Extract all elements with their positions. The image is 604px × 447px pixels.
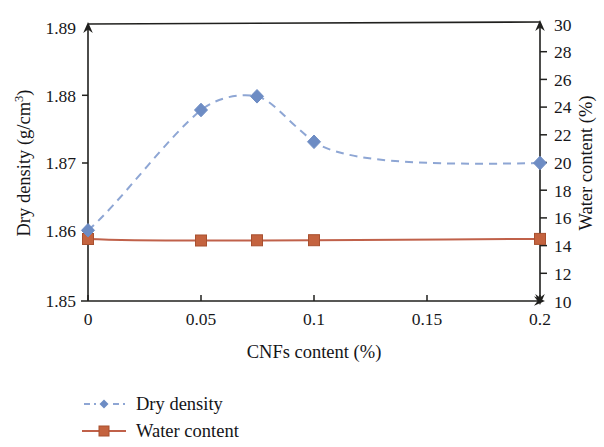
legend-item-water-content[interactable]: Water content [82, 421, 240, 441]
y-axis-title-group: Dry density (g/cm3) [12, 89, 35, 236]
y2-tick-label-26: 26 [554, 70, 572, 90]
chart-legend: Dry density Water content [82, 394, 240, 441]
legend-item-dry-density[interactable]: Dry density [84, 394, 224, 414]
x-axis-ticks [88, 295, 540, 301]
y2-tick-label-24: 24 [554, 97, 572, 117]
y-tick-label-1-85: 1.85 [45, 291, 76, 311]
y2-tick-label-30: 30 [554, 15, 572, 35]
chart-svg: 1.89 1.88 1.87 1.86 1.85 30 28 26 24 22 … [0, 0, 604, 447]
x-tick-label-0-2: 0.2 [529, 309, 551, 329]
y2-tick-label-10: 10 [554, 292, 572, 312]
water-content-point-4 [535, 233, 546, 244]
water-content-point-1 [196, 235, 207, 246]
y-tick-label-1-87: 1.87 [45, 153, 76, 173]
y2-tick-label-22: 22 [554, 125, 572, 145]
y-tick-label-1-86: 1.86 [45, 221, 76, 241]
x-axis-title: CNFs content (%) [247, 342, 382, 363]
y-tick-label-1-89: 1.89 [45, 18, 76, 38]
plot-top-border [88, 22, 540, 24]
legend-water-content-marker-icon [99, 426, 109, 436]
x-tick-label-0-05: 0.05 [186, 309, 217, 329]
x-tick-label-0-1: 0.1 [303, 309, 325, 329]
dry-density-line [88, 95, 540, 230]
y2-axis-title: Water content (%) [576, 95, 597, 230]
left-axis-ticks [81, 95, 88, 301]
y-axis-title-main: Dry density (g/cm [14, 101, 35, 236]
left-axis-tick-labels: 1.89 1.88 1.87 1.86 1.85 [45, 18, 76, 311]
dry-density-point-2 [251, 90, 264, 104]
y2-tick-label-14: 14 [554, 236, 572, 256]
y-tick-label-1-88: 1.88 [45, 86, 76, 106]
y2-tick-label-28: 28 [554, 42, 572, 62]
y2-tick-label-16: 16 [554, 208, 572, 228]
y2-tick-label-20: 20 [554, 153, 572, 173]
x-axis-tick-labels: 0 0.05 0.1 0.15 0.2 [84, 309, 551, 329]
dry-density-point-4 [534, 156, 547, 170]
water-content-point-3 [309, 235, 320, 246]
legend-label-dry-density: Dry density [136, 394, 224, 414]
legend-label-water-content: Water content [136, 421, 240, 441]
y2-tick-label-18: 18 [554, 181, 572, 201]
y2-axis-title-group: Water content (%) [576, 95, 597, 230]
dry-density-point-3 [308, 135, 321, 149]
x-tick-label-0-15: 0.15 [412, 309, 443, 329]
water-content-point-2 [252, 235, 263, 246]
legend-dry-density-marker-icon [100, 400, 109, 409]
x-tick-label-0: 0 [84, 309, 93, 329]
chart-figure: 1.89 1.88 1.87 1.86 1.85 30 28 26 24 22 … [0, 0, 604, 447]
series-water-content [83, 233, 546, 246]
series-dry-density [82, 90, 547, 238]
right-axis-tick-labels: 30 28 26 24 22 20 18 16 14 12 10 [554, 15, 572, 312]
y2-tick-label-12: 12 [554, 264, 572, 284]
y-axis-title-end: ) [14, 89, 35, 95]
svg-text:Dry density (g/cm3): Dry density (g/cm3) [12, 89, 35, 236]
